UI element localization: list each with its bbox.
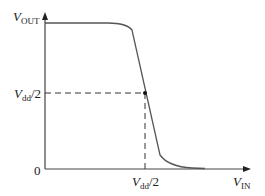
x-tick-suffix: /2 <box>149 174 159 189</box>
x-axis-label-sub: IN <box>241 181 251 191</box>
x-tick-main: V <box>132 174 140 189</box>
x-axis-label: VIN <box>233 175 250 191</box>
y-axis-arrow-icon <box>42 12 48 20</box>
y-tick-vdd2: Vdd/2 <box>14 87 41 103</box>
y-tick-main: V <box>14 86 22 101</box>
y-axis-label-sub: OUT <box>21 16 40 26</box>
y-tick-sub: dd <box>22 93 31 103</box>
x-tick-vdd2: Vdd/2 <box>132 175 159 191</box>
x-axis-label-main: V <box>233 174 241 189</box>
y-tick-suffix: /2 <box>31 86 41 101</box>
origin-label: 0 <box>34 164 41 177</box>
y-axis-label-main: V <box>13 9 21 24</box>
vtc-curve <box>45 23 205 169</box>
switching-point <box>143 91 147 95</box>
y-axis-label: VOUT <box>13 10 39 26</box>
x-tick-sub: dd <box>140 181 149 191</box>
x-axis-arrow-icon <box>243 166 251 172</box>
